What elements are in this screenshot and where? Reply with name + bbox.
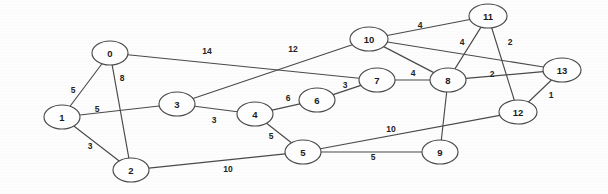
node-13-label: 13 <box>557 65 568 76</box>
node-5[interactable]: 5 <box>285 140 321 164</box>
edge-label-0-2: 8 <box>120 73 125 83</box>
edge-label-5-9: 5 <box>371 152 376 162</box>
node-9[interactable]: 9 <box>422 140 458 164</box>
node-6-label: 6 <box>314 95 319 106</box>
edge-8-11 <box>455 27 481 69</box>
edge-8-13 <box>466 72 543 79</box>
edge-10-11 <box>387 20 470 36</box>
edge-2-5 <box>149 154 285 168</box>
graph-figure: 5 8 14 3 5 10 3 12 5 6 5 10 3 4 4 2 4 2 … <box>0 0 608 194</box>
edge-label-12-13: 1 <box>549 90 554 100</box>
node-11-label: 11 <box>483 11 494 22</box>
node-6[interactable]: 6 <box>299 88 335 112</box>
edge-label-2-5: 10 <box>223 164 233 174</box>
node-10[interactable]: 10 <box>350 27 388 51</box>
edge-label-5-12: 10 <box>386 124 396 134</box>
node-7[interactable]: 7 <box>359 68 395 92</box>
edge-label-0-7: 14 <box>202 46 212 56</box>
edge-label-1-2: 3 <box>88 141 93 151</box>
node-7-label: 7 <box>374 75 379 86</box>
edge-label-0-1: 5 <box>71 85 76 95</box>
node-4[interactable]: 4 <box>237 102 273 126</box>
nodes-layer: 0 1 2 3 4 5 6 <box>44 4 581 182</box>
edge-label-8-13: 2 <box>490 69 495 79</box>
node-2-label: 2 <box>128 165 133 176</box>
node-10-label: 10 <box>364 34 375 45</box>
node-4-label: 4 <box>252 109 258 120</box>
edge-0-7 <box>128 55 359 78</box>
edge-label-11-12: 2 <box>508 37 513 47</box>
node-12[interactable]: 12 <box>499 100 537 124</box>
edge-8-9 <box>441 92 446 140</box>
edge-label-3-10: 12 <box>288 44 298 54</box>
node-3-label: 3 <box>174 99 179 110</box>
node-8[interactable]: 8 <box>430 68 466 92</box>
edge-label-1-3: 5 <box>95 104 100 114</box>
node-11[interactable]: 11 <box>469 4 507 28</box>
edge-3-4 <box>195 106 238 111</box>
node-13[interactable]: 13 <box>543 58 581 82</box>
edge-label-4-5: 5 <box>269 131 274 141</box>
edge-8-10 <box>384 47 434 73</box>
edge-label-4-6: 6 <box>286 93 291 103</box>
edge-label-6-7: 3 <box>343 80 348 90</box>
node-9-label: 9 <box>437 147 442 158</box>
node-5-label: 5 <box>300 147 306 158</box>
edge-label-10-11: 4 <box>418 20 423 30</box>
graph-canvas: 5 8 14 3 5 10 3 12 5 6 5 10 3 4 4 2 4 2 … <box>0 0 608 194</box>
edge-label-3-4: 3 <box>212 115 217 125</box>
node-12-label: 12 <box>513 107 524 118</box>
node-0-label: 0 <box>107 48 112 59</box>
edge-label-8-11: 4 <box>460 37 465 47</box>
node-3[interactable]: 3 <box>159 92 195 116</box>
edge-5-12 <box>320 115 499 148</box>
edge-label-7-8: 4 <box>411 68 416 78</box>
node-1-label: 1 <box>59 112 65 123</box>
node-1[interactable]: 1 <box>44 105 80 129</box>
edge-1-2 <box>74 126 119 161</box>
edge-10-13 <box>387 42 543 67</box>
edge-4-6 <box>272 104 300 110</box>
node-2[interactable]: 2 <box>113 158 149 182</box>
node-8-label: 8 <box>445 75 450 86</box>
node-0[interactable]: 0 <box>92 41 128 65</box>
